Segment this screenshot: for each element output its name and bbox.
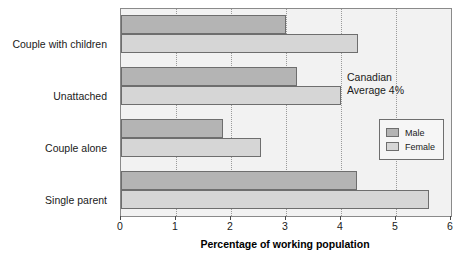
annotation-line-1: Canadian bbox=[347, 71, 404, 84]
category-label-3: Single parent bbox=[0, 194, 107, 206]
bar-female-single-parent bbox=[121, 190, 429, 209]
tick-label-3: 3 bbox=[275, 220, 295, 232]
tick-label-6: 6 bbox=[440, 220, 460, 232]
tick-label-4: 4 bbox=[330, 220, 350, 232]
legend-label-male: Male bbox=[405, 128, 425, 138]
legend-swatch-male-icon bbox=[386, 128, 399, 137]
annotation-line-2: Average 4% bbox=[347, 84, 404, 97]
legend-label-female: Female bbox=[405, 142, 435, 152]
legend: Male Female bbox=[379, 119, 444, 160]
legend-swatch-female-icon bbox=[386, 142, 399, 151]
legend-item-female: Female bbox=[386, 140, 435, 153]
bar-female-unattached bbox=[121, 86, 341, 105]
tick-label-5: 5 bbox=[385, 220, 405, 232]
bar-female-couple-alone bbox=[121, 138, 261, 157]
bar-male-couple-with-children bbox=[121, 15, 286, 34]
tick-label-2: 2 bbox=[220, 220, 240, 232]
x-axis: 0 1 2 3 4 5 6 bbox=[0, 216, 472, 232]
bar-male-unattached bbox=[121, 67, 297, 86]
tick-label-1: 1 bbox=[165, 220, 185, 232]
category-axis: Couple with children Unattached Couple a… bbox=[0, 8, 113, 215]
bar-male-couple-alone bbox=[121, 119, 223, 138]
plot-area: Canadian Average 4% Male Female bbox=[120, 8, 452, 217]
legend-item-male: Male bbox=[386, 126, 435, 139]
bar-female-couple-with-children bbox=[121, 34, 358, 53]
gridline-5 bbox=[396, 9, 397, 216]
category-label-2: Couple alone bbox=[0, 142, 107, 154]
category-label-1: Unattached bbox=[0, 90, 107, 102]
annotation-canadian-average: Canadian Average 4% bbox=[347, 71, 404, 97]
bar-male-single-parent bbox=[121, 171, 357, 190]
tick-label-0: 0 bbox=[110, 220, 130, 232]
category-label-0: Couple with children bbox=[0, 38, 107, 50]
x-axis-title: Percentage of working population bbox=[120, 238, 450, 250]
bar-chart: Couple with children Unattached Couple a… bbox=[0, 0, 472, 264]
